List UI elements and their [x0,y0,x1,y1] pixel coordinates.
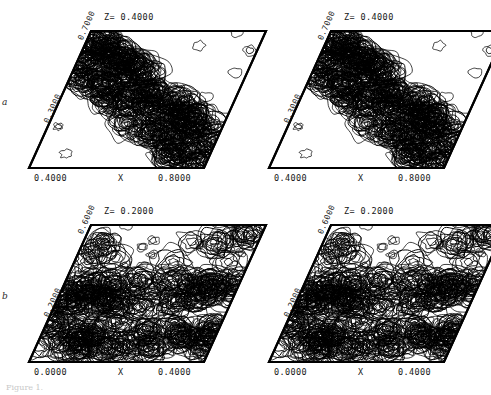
panel-title-a-right: Z= 0.4000 [344,12,394,22]
x-tick-right-a-right: 0.8000 [398,173,431,183]
row-label-b: b [2,291,8,301]
panel-title-a-left: Z= 0.4000 [104,12,154,22]
x-tick-right-b-right: 0.4000 [398,367,431,377]
x-tick-left-b-left: 0.0000 [34,367,67,377]
x-axis-label-b-left: X [118,367,123,377]
x-tick-left-b-right: 0.0000 [274,367,307,377]
row-label-a: a [2,97,7,107]
panel-title-b-left: Z= 0.2000 [104,206,154,216]
panel-title-b-right: Z= 0.2000 [344,206,394,216]
contour-canvas-a-left [26,28,269,171]
x-axis-label-a-left: X [118,173,123,183]
figure-root: Z= 0.40000.70000.30000.4000X0.8000aZ= 0.… [0,0,491,395]
contour-canvas-b-left [26,222,269,365]
x-tick-right-b-left: 0.4000 [158,367,191,377]
figure-caption: Figure 1. [6,383,43,392]
x-tick-right-a-left: 0.8000 [158,173,191,183]
x-axis-label-a-right: X [358,173,363,183]
x-axis-label-b-right: X [358,367,363,377]
x-tick-left-a-right: 0.4000 [274,173,307,183]
x-tick-left-a-left: 0.4000 [34,173,67,183]
